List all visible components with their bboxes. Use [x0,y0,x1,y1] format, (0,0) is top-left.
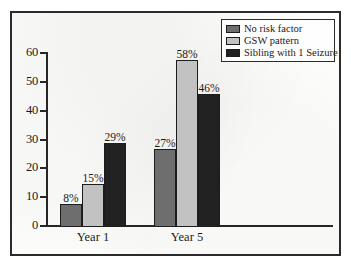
chart-legend: No risk factorGSW patternSibling with 1 … [221,19,335,62]
bar-value-label: 58% [176,48,197,60]
y-axis-tick [40,52,48,54]
y-axis-tick-label: 0 [12,219,38,232]
legend-item-label: GSW pattern [244,35,299,46]
legend-item[interactable]: GSW pattern [226,35,330,46]
y-axis-tick [40,139,48,141]
y-axis-tick-label: 60 [12,46,38,59]
legend-item[interactable]: Sibling with 1 Seizure [226,47,330,58]
y-axis-tick [40,167,48,169]
bar[interactable]: 15% [82,184,104,227]
bar-group: 27%58%46% [154,52,220,227]
y-axis-tick-label-wrap: 40 [12,104,38,116]
y-axis-tick-label-wrap: 10 [12,190,38,202]
y-axis-tick [40,110,48,112]
y-axis-tick-label-wrap: 0 [12,219,38,231]
y-axis-tick [40,196,48,198]
y-axis-tick-label: 30 [12,133,38,146]
legend-item[interactable]: No risk factor [226,23,330,34]
bar[interactable]: 58% [176,60,198,227]
y-axis-tick-label: 40 [12,104,38,117]
x-axis-category-label: Year 5 [171,230,203,244]
bar[interactable]: 27% [154,149,176,227]
y-axis-tick-label-wrap: 60 [12,46,38,58]
bar-group: 8%15%29% [60,52,126,227]
bar[interactable]: 46% [198,94,220,227]
y-axis-tick-label: 20 [12,161,38,174]
bar-value-label: 15% [82,172,103,184]
figure-frame: 0102030405060 8%15%29%27%58%46% Year 1Ye… [10,11,341,256]
legend-color-swatch [226,37,240,45]
y-axis-tick-label: 10 [12,190,38,203]
y-axis-tick-label-wrap: 50 [12,75,38,87]
legend-color-swatch [226,49,240,57]
y-axis-tick-label-wrap: 20 [12,161,38,173]
legend-item-label: No risk factor [244,23,302,34]
bar-value-label: 27% [154,137,175,149]
bar[interactable]: 29% [104,143,126,227]
bar-value-label: 29% [104,131,125,143]
y-axis-tick [40,81,48,83]
legend-item-label: Sibling with 1 Seizure [244,47,338,58]
y-axis-tick-label-wrap: 30 [12,133,38,145]
bar[interactable]: 8% [60,204,82,227]
bar-value-label: 46% [198,82,219,94]
y-axis-tick [40,225,48,227]
bar-value-label: 8% [63,192,78,204]
y-axis-tick-label: 50 [12,75,38,88]
x-axis-category-label: Year 1 [77,230,109,244]
legend-color-swatch [226,25,240,33]
